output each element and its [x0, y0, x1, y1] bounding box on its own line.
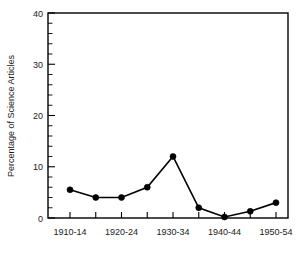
data-point: [222, 214, 228, 220]
line-chart: 0 10 20 30 40 Percentage of Science Arti…: [0, 0, 307, 253]
y-tick-label-40: 40: [33, 9, 43, 19]
y-tick-label-30: 30: [33, 60, 43, 70]
y-axis-title: Percentage of Science Articles: [6, 54, 16, 177]
x-axis-tick-labels: 1910-14 1920-24 1930-34 1940-44 1950-54: [53, 227, 292, 237]
data-point: [67, 187, 73, 193]
x-tick-label-1950-54: 1950-54: [259, 227, 292, 237]
x-tick-label-1930-34: 1930-34: [156, 227, 189, 237]
data-point: [93, 195, 99, 201]
data-point: [170, 154, 176, 160]
x-tick-label-1940-44: 1940-44: [208, 227, 241, 237]
y-tick-label-20: 20: [33, 111, 43, 121]
x-tick-label-1920-24: 1920-24: [105, 227, 138, 237]
y-axis-tick-labels: 0 10 20 30 40: [33, 9, 43, 224]
x-tick-label-1910-14: 1910-14: [53, 227, 86, 237]
data-point: [273, 200, 279, 206]
data-point: [247, 208, 253, 214]
data-point: [196, 205, 202, 211]
data-point: [119, 195, 125, 201]
plot-background: [48, 13, 288, 218]
y-tick-label-10: 10: [33, 162, 43, 172]
data-point: [144, 184, 150, 190]
chart-figure: 0 10 20 30 40 Percentage of Science Arti…: [0, 0, 307, 253]
y-tick-label-0: 0: [38, 214, 43, 224]
